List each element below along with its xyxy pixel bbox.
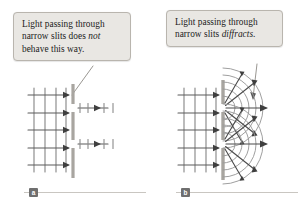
rule-right-a: [38, 192, 146, 193]
incoming-rays-b: [178, 95, 218, 165]
caption-b-emphasis: diffracts: [222, 29, 253, 39]
outgoing-beam-a-1: [78, 104, 113, 113]
caption-a-leader-line: [72, 66, 93, 95]
incoming-wavefronts-a: [34, 88, 66, 172]
incoming-arrowheads-b: [213, 92, 220, 168]
panel-a-label-row: a: [24, 187, 146, 197]
caption-a-line3: behave this way.: [22, 44, 84, 54]
radial-arrows-slit-1: [225, 71, 268, 145]
incoming-rays-a: [28, 95, 68, 165]
diffraction-figure: Light passing through narrow slits does …: [0, 0, 305, 211]
caption-b-line1: Light passing through: [175, 17, 258, 27]
caption-a-line1: Light passing through: [22, 19, 105, 29]
panel-badge-a: a: [29, 188, 38, 197]
caption-b: Light passing through narrow slits diffr…: [166, 10, 283, 47]
caption-a-emphasis: not: [88, 31, 100, 41]
caption-a-line2-pre: narrow slits does: [22, 31, 88, 41]
rule-right-b: [190, 192, 298, 193]
outgoing-beam-a-2: [78, 140, 113, 149]
incoming-wavefronts-b: [184, 88, 216, 172]
radial-arrows-slit-2: [225, 107, 268, 181]
caption-a: Light passing through narrow slits does …: [13, 12, 131, 61]
panel-b: Light passing through narrow slits diffr…: [152, 0, 304, 211]
panel-badge-b: b: [181, 188, 190, 197]
panel-a: Light passing through narrow slits does …: [0, 0, 152, 211]
diffracted-wavefronts-slit-2: [223, 104, 263, 184]
caption-b-leader-line: [250, 64, 257, 100]
panel-b-label-row: b: [176, 187, 298, 197]
caption-b-line2-pre: narrow slits: [175, 29, 222, 39]
caption-b-line3: .: [253, 29, 255, 39]
incoming-arrowheads-a: [63, 92, 70, 168]
diffracted-wavefronts-slit-1: [223, 68, 263, 148]
